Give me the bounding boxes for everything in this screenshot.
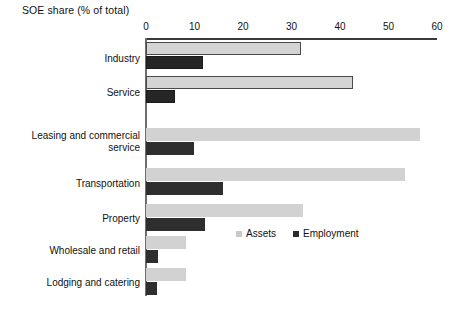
category-label: Lodging and catering — [0, 277, 140, 289]
bar-employment — [146, 182, 223, 195]
bar-employment — [146, 56, 203, 69]
category-row: Wholesale and retail — [0, 236, 454, 264]
category-label: Transportation — [0, 178, 140, 190]
bar-employment — [146, 250, 158, 263]
x-tick-label-10: 10 — [189, 21, 200, 32]
plot-area: IndustryServiceLeasing and commercial se… — [0, 40, 454, 296]
bar-employment — [146, 218, 205, 231]
category-label: Property — [0, 213, 140, 225]
bar-employment — [146, 142, 194, 155]
category-row: Leasing and commercial service — [0, 128, 454, 156]
category-row: Lodging and catering — [0, 268, 454, 296]
legend-label: Assets — [246, 228, 276, 239]
bar-assets — [146, 128, 420, 141]
chart-title: SOE share (% of total) — [22, 4, 129, 16]
category-label: Wholesale and retail — [0, 245, 140, 257]
category-row: Service — [0, 76, 454, 104]
category-label: Leasing and commercial service — [0, 130, 140, 153]
x-axis-tick-labels: 0102030405060 — [0, 21, 454, 35]
bar-assets — [146, 268, 186, 281]
bar-assets — [146, 168, 405, 181]
category-row: Industry — [0, 42, 454, 70]
category-label: Industry — [0, 53, 140, 65]
legend-swatch-assets-icon — [236, 231, 242, 237]
chart-figure: SOE share (% of total) 0102030405060 Ind… — [0, 0, 454, 310]
category-row: Property — [0, 204, 454, 232]
category-row: Transportation — [0, 168, 454, 196]
bar-employment — [146, 90, 175, 103]
bar-assets — [146, 236, 186, 249]
bar-assets — [146, 42, 301, 55]
x-tick-label-40: 40 — [334, 21, 345, 32]
legend-label: Employment — [303, 228, 359, 239]
chart-legend: AssetsEmployment — [236, 228, 359, 239]
x-tick-label-0: 0 — [143, 21, 149, 32]
legend-item-employment: Employment — [293, 228, 359, 239]
x-tick-label-30: 30 — [286, 21, 297, 32]
bar-employment — [146, 282, 157, 295]
legend-item-assets: Assets — [236, 228, 276, 239]
x-tick-label-50: 50 — [383, 21, 394, 32]
category-label: Service — [0, 87, 140, 99]
legend-swatch-employment-icon — [293, 231, 299, 237]
x-tick-label-20: 20 — [237, 21, 248, 32]
x-tick-label-60: 60 — [431, 21, 442, 32]
bar-assets — [146, 76, 353, 89]
bar-assets — [146, 204, 303, 217]
